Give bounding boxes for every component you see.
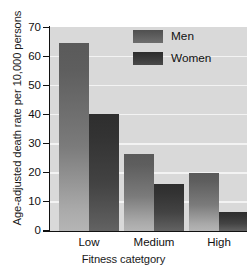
x-axis-line [43, 231, 247, 232]
y-tick-label-30: 30 [1, 138, 41, 150]
x-tick-label-low: Low [54, 236, 124, 248]
y-tick-label-50: 50 [1, 80, 41, 92]
legend-swatch-men-icon [133, 30, 163, 43]
legend-swatch-women-icon [133, 52, 163, 65]
bar-women-medium [154, 184, 184, 231]
x-axis-label: Fitness catetgory [0, 253, 247, 265]
bar-women-high [219, 212, 247, 231]
x-tick-label-medium: Medium [119, 236, 189, 248]
bar-men-medium [124, 154, 154, 231]
bar-women-low [89, 114, 119, 231]
y-axis-line [49, 26, 50, 232]
y-tick-label-70: 70 [1, 22, 41, 34]
y-tick-label-0: 0 [1, 225, 41, 237]
bar-men-low [59, 43, 89, 231]
plot-area: Men Women [50, 27, 247, 231]
x-tick-label-high: High [184, 236, 247, 248]
y-tick-label-40: 40 [1, 109, 41, 121]
y-tick-label-20: 20 [1, 167, 41, 179]
bar-chart-figure: Age-adjusted death rate per 10,000 perso… [0, 0, 247, 270]
y-tick-label-60: 60 [1, 51, 41, 63]
legend-label-men: Men [171, 29, 194, 43]
bar-men-high [189, 173, 219, 231]
y-tick-label-10: 10 [1, 196, 41, 208]
legend-label-women: Women [171, 51, 211, 65]
